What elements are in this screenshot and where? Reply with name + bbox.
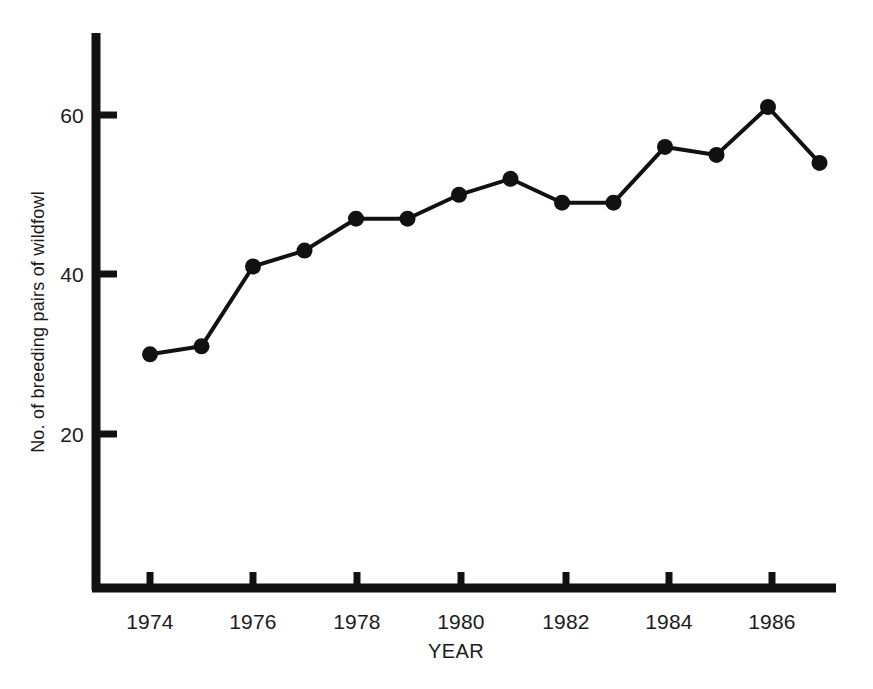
data-point	[554, 195, 570, 211]
y-axis-ticks	[100, 115, 117, 434]
x-tick-label-1976: 1976	[229, 610, 277, 633]
data-series-group	[142, 99, 828, 362]
figure-caption-clipped	[96, 676, 856, 689]
data-point	[760, 99, 776, 115]
data-point	[657, 139, 673, 155]
data-point	[606, 195, 622, 211]
x-tick-label-1984: 1984	[645, 610, 693, 633]
chart-figure: 60 40 20 1974 1976 1978 1980 1982 1984 1…	[0, 0, 873, 689]
data-point	[245, 259, 261, 275]
y-tick-label-40: 40	[60, 263, 84, 286]
x-tick-label-1986: 1986	[748, 610, 796, 633]
y-axis-tick-labels: 60 40 20	[60, 104, 84, 446]
data-point	[709, 147, 725, 163]
x-tick-label-1978: 1978	[333, 610, 381, 633]
data-point	[400, 211, 416, 227]
data-point	[142, 346, 158, 362]
y-tick-label-20: 20	[60, 423, 84, 446]
x-tick-label-1980: 1980	[437, 610, 485, 633]
x-axis-tick-labels: 1974 1976 1978 1980 1982 1984 1986	[126, 610, 796, 633]
x-tick-label-1974: 1974	[126, 610, 174, 633]
data-point	[297, 243, 313, 259]
axes-spines	[92, 33, 836, 590]
y-axis-title: No. of breeding pairs of wildfowl	[28, 191, 48, 453]
series-markers	[142, 99, 828, 362]
line-chart: 60 40 20 1974 1976 1978 1980 1982 1984 1…	[0, 0, 873, 689]
data-point	[348, 211, 364, 227]
data-point	[503, 171, 519, 187]
data-point	[451, 187, 467, 203]
x-axis-title: YEAR	[428, 640, 484, 662]
data-point	[812, 155, 828, 171]
y-tick-label-60: 60	[60, 104, 84, 127]
series-line	[150, 107, 820, 354]
x-tick-label-1982: 1982	[542, 610, 590, 633]
data-point	[194, 338, 210, 354]
